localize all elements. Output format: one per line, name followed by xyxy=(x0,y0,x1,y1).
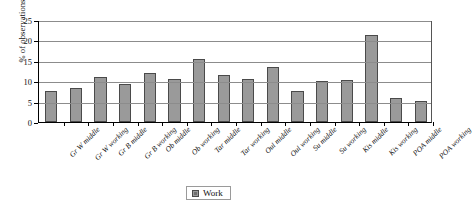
bar xyxy=(70,88,82,122)
bar xyxy=(45,91,57,122)
bar-slot xyxy=(88,21,113,122)
y-axis-tick-mark xyxy=(34,41,38,42)
bar-slot xyxy=(39,21,64,122)
gridline xyxy=(39,62,431,63)
bar xyxy=(267,67,279,122)
y-axis-tick-mark xyxy=(34,21,38,22)
bar-series-work xyxy=(39,21,431,122)
gridline xyxy=(39,41,431,42)
gridline xyxy=(39,21,431,22)
y-axis-tick-mark xyxy=(34,82,38,83)
y-axis-tick-label: 5 xyxy=(0,98,32,108)
bar xyxy=(341,80,353,122)
legend-label-work: Work xyxy=(203,188,223,198)
x-axis-labels: Gr W middleGr W workingGr B middleGr B w… xyxy=(38,125,432,187)
bar xyxy=(291,91,303,122)
bar-slot xyxy=(335,21,360,122)
bar xyxy=(94,77,106,122)
bar xyxy=(365,35,377,122)
bar xyxy=(193,59,205,122)
bar xyxy=(144,73,156,122)
y-axis-tick-mark xyxy=(34,103,38,104)
bar-slot xyxy=(113,21,138,122)
bar-slot xyxy=(162,21,187,122)
bar-slot xyxy=(310,21,335,122)
x-axis-tick-mark xyxy=(433,122,434,126)
bar-slot xyxy=(285,21,310,122)
chart-legend: Work xyxy=(186,186,231,200)
bar xyxy=(168,79,180,122)
bar-slot xyxy=(138,21,163,122)
bar-slot xyxy=(64,21,89,122)
bar-slot xyxy=(408,21,433,122)
bar xyxy=(415,101,427,122)
y-axis-tick-mark xyxy=(34,62,38,63)
bar xyxy=(390,98,402,122)
bar xyxy=(316,81,328,122)
y-axis-tick-mark xyxy=(34,123,38,124)
bar-slot xyxy=(359,21,384,122)
y-axis-tick-label: 20 xyxy=(0,36,32,46)
bar-slot xyxy=(261,21,286,122)
bar xyxy=(242,79,254,122)
y-axis-tick-label: 25 xyxy=(0,16,32,26)
gridline xyxy=(39,103,431,104)
legend-swatch-work xyxy=(192,190,199,197)
y-axis-tick-label: 0 xyxy=(0,118,32,128)
bar-slot xyxy=(236,21,261,122)
bar-slot xyxy=(211,21,236,122)
y-axis-tick-label: 15 xyxy=(0,57,32,67)
y-axis-tick-label: 10 xyxy=(0,77,32,87)
bar-slot xyxy=(187,21,212,122)
gridline xyxy=(39,82,431,83)
plot-area xyxy=(38,21,432,123)
bar-slot xyxy=(384,21,409,122)
